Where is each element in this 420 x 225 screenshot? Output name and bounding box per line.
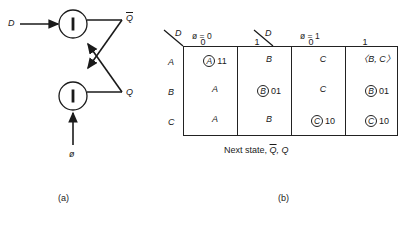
table-cell-c-2: C 10 [301,115,345,127]
cell-state-circled: C [311,115,323,127]
cell-state: C [320,85,327,94]
wire-qbar-feedback [88,20,122,68]
table-vrule-2 [291,47,292,135]
label-qbar-output: Q [126,14,133,23]
corner-label-d-left: D [175,29,182,38]
caption-panel-b: (b) [278,194,289,203]
circuit-diagram-svg [0,0,160,225]
table-vrule-3 [345,47,346,135]
wire-q-feedback [88,44,122,92]
corner-label-d-right: D [265,29,272,38]
label-q-output: Q [126,88,133,97]
cell-output-bits: 01 [271,87,281,96]
figure-root: D Q Q ø (a) ø = 0 ø = 1 D D 0 1 0 1 A B … [0,0,420,225]
cell-output-bits: 01 [379,87,389,96]
cell-state: B [266,55,272,64]
caption-q: , Q [277,145,289,155]
cell-state: A [212,85,218,94]
row-header-c: C [168,118,175,127]
inverter-bottom-symbol [72,90,75,103]
flow-table-caption: Next state, Q, Q [224,146,289,155]
table-cell-b-3: B 01 [355,85,399,97]
table-cell-c-1: B [247,115,291,124]
cell-state: C [320,55,327,64]
table-cell-a-0: A 11 [193,55,237,67]
inverter-top-symbol [72,18,75,31]
label-phi-input: ø [69,150,75,159]
caption-next-state-text: Next state, [224,145,270,155]
table-cell-c-3: C 10 [355,115,399,127]
cell-state: B [266,115,272,124]
cell-state-circled: B [365,85,377,97]
cell-state-circled: A [203,55,215,67]
cell-output-bits: 10 [379,117,389,126]
table-cell-b-1: B 01 [247,85,291,97]
cell-state-circled: B [257,85,269,97]
panel-b-flow-table: ø = 0 ø = 1 D D 0 1 0 1 A B C A 11 B [160,0,420,225]
table-cell-a-2: C [301,55,345,64]
table-cell-a-3: 〈B, C〉 [355,55,399,64]
table-cell-a-1: B [247,55,291,64]
cell-state: B, C [368,54,386,64]
label-d-input: D [8,19,15,28]
cell-state-circled: C [365,115,377,127]
cell-output-bits: 10 [325,117,335,126]
cell-output-bits: 11 [217,57,226,66]
panel-a-circuit: D Q Q ø (a) [0,0,160,225]
row-header-a: A [168,58,174,67]
table-cell-c-0: A [193,115,237,124]
row-header-b: B [168,88,174,97]
caption-panel-a: (a) [58,194,69,203]
table-cell-b-0: A [193,85,237,94]
cell-state: A [212,115,218,124]
table-cell-b-2: C [301,85,345,94]
cell-state-set: 〈B, C〉 [359,55,395,64]
caption-qbar: Q [270,145,277,155]
table-vrule-1 [237,47,238,135]
